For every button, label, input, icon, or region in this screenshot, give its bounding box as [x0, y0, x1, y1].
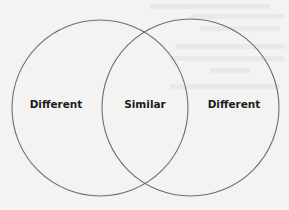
page: Different Similar Different: [0, 0, 289, 210]
venn-diagram: Different Similar Different: [0, 0, 289, 210]
left-set-label: Different: [30, 98, 83, 110]
right-set-label: Different: [208, 98, 261, 110]
intersection-label: Similar: [124, 98, 166, 110]
